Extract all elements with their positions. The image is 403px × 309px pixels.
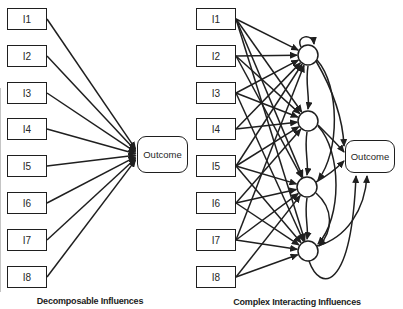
edge-right-i7-h4 — [236, 240, 297, 249]
edge-left-I1-outcome — [47, 19, 136, 149]
edge-curve-h1-to-h2 — [307, 66, 308, 109]
edge-left-I8-outcome — [47, 160, 136, 277]
edge-right-i4-h2 — [236, 122, 297, 129]
edge-left-I4-outcome — [47, 129, 136, 154]
edge-right-i6-h2 — [236, 129, 301, 203]
edge-curve-h2-to-h3 — [306, 132, 307, 175]
edge-left-I3-outcome — [47, 93, 136, 152]
edge-curve-h3-to-h4 — [306, 198, 307, 239]
edge-left-I7-outcome — [47, 159, 136, 241]
edge-right-i1-h1 — [236, 19, 298, 50]
hidden-node-h2 — [298, 111, 318, 131]
edge-curve-h2-to-h4-arc — [318, 126, 336, 244]
edge-curve-h1-to-outcome — [316, 61, 344, 146]
edge-right-i2-h1 — [236, 55, 297, 56]
edges-svg — [0, 0, 403, 309]
left-panel-edges — [47, 19, 136, 277]
edge-left-I2-outcome — [47, 56, 136, 151]
hidden-node-h3 — [297, 177, 317, 197]
hidden-node-h4 — [298, 241, 318, 261]
edge-curve-h3-to-outcome — [316, 161, 344, 182]
diagram-stage: I1 I2 I3 I4 I5 I6 I7 I8 I1 I2 I3 I4 I5 I… — [0, 0, 403, 309]
hidden-node-h1 — [298, 45, 318, 65]
edge-right-i5-h4 — [236, 166, 301, 243]
